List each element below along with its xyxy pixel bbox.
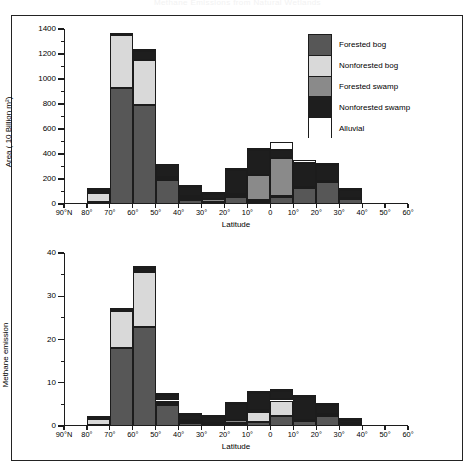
y-tick-label: 400 xyxy=(43,150,56,158)
bar-segment xyxy=(110,348,133,426)
bar-segment xyxy=(202,192,225,194)
bar-segment xyxy=(339,420,362,422)
x-tick-label: 10° xyxy=(288,209,299,216)
y-tick-minor xyxy=(61,404,65,405)
bar-segment xyxy=(110,35,133,88)
plot-area-top: Latitude 020040060080010001200140090°N80… xyxy=(64,29,408,204)
x-tick-label: 20° xyxy=(311,209,322,216)
bar-segment xyxy=(247,202,270,205)
y-tick-label: 40 xyxy=(47,249,56,257)
bar-segment xyxy=(225,168,248,170)
bar-stack xyxy=(293,160,316,204)
bar-stack xyxy=(179,185,202,204)
x-tick-label: 70° xyxy=(104,209,115,216)
bar-segment xyxy=(87,202,110,204)
bar-segment xyxy=(110,308,133,311)
bar-segment xyxy=(179,423,202,426)
panel-area-chart: Area ( 10 Billion m²) Latitude 020040060… xyxy=(12,16,464,239)
bar-stack xyxy=(316,404,339,426)
bar-stack xyxy=(247,392,270,426)
bar-segment xyxy=(339,190,362,198)
bar-stack xyxy=(133,50,156,204)
legend-swatch xyxy=(309,118,331,139)
y-tick-label: 200 xyxy=(43,175,56,183)
y-tick-minor xyxy=(61,317,65,318)
bar-segment xyxy=(293,421,316,426)
panel-methane-chart: Methane emission Latitude 01020304090°N8… xyxy=(12,239,464,462)
bar-stack xyxy=(87,417,110,426)
x-tick-label: 20° xyxy=(219,431,230,438)
bar-segment xyxy=(293,160,316,164)
y-tick xyxy=(58,153,64,154)
y-tick-minor xyxy=(61,166,65,167)
x-tick-label: 50° xyxy=(150,209,161,216)
legend-label: Alluvial xyxy=(339,125,364,133)
x-tick-label: 60° xyxy=(127,431,138,438)
bar-segment xyxy=(270,158,293,196)
x-tick-label: 30° xyxy=(196,431,207,438)
x-tick-label: 80° xyxy=(81,209,92,216)
bar-segment xyxy=(293,397,316,420)
legend-swatch xyxy=(309,97,331,118)
y-tick-label: 20 xyxy=(47,336,56,344)
x-axis-label-top: Latitude xyxy=(64,221,408,229)
bar-stack xyxy=(339,420,362,426)
bar-segment xyxy=(293,188,316,204)
y-axis-line-top xyxy=(64,29,65,204)
bar-stack xyxy=(156,395,179,426)
bar-segment xyxy=(247,412,270,422)
bar-stack xyxy=(247,150,270,204)
y-tick xyxy=(58,252,64,253)
bar-segment xyxy=(179,419,202,421)
bar-segment xyxy=(270,197,293,205)
y-tick xyxy=(58,296,64,297)
x-tick-label: 30° xyxy=(334,209,345,216)
y-tick xyxy=(58,78,64,79)
bar-segment xyxy=(110,88,133,204)
legend-swatch xyxy=(309,56,331,77)
bar-segment xyxy=(156,395,179,400)
bar-segment xyxy=(225,402,248,404)
bar-segment xyxy=(156,164,179,177)
bar-segment xyxy=(202,194,225,199)
x-tick-label: 40° xyxy=(173,431,184,438)
y-tick-label: 600 xyxy=(43,125,56,133)
x-tick-label: 20° xyxy=(219,209,230,216)
y-tick xyxy=(58,339,64,340)
bar-stack xyxy=(179,415,202,426)
x-tick-label: 60° xyxy=(127,209,138,216)
bar-stack xyxy=(270,389,293,426)
bar-segment xyxy=(87,188,110,190)
y-tick xyxy=(58,382,64,383)
y-tick-minor xyxy=(61,191,65,192)
bar-segment xyxy=(225,197,248,204)
bar-segment xyxy=(270,416,293,426)
y-tick-label: 1400 xyxy=(38,25,56,33)
bar-segment xyxy=(247,391,270,393)
bar-segment xyxy=(247,393,270,410)
bar-segment xyxy=(339,199,362,204)
bar-segment xyxy=(270,142,293,150)
y-tick-minor xyxy=(61,91,65,92)
legend-label: Forested swamp xyxy=(339,83,398,91)
x-tick-label: 10° xyxy=(242,209,253,216)
bar-segment xyxy=(156,403,179,406)
x-tick-label: 0 xyxy=(268,431,272,438)
bar-segment xyxy=(202,422,225,424)
bar-segment xyxy=(156,405,179,426)
bar-stack xyxy=(110,34,133,204)
x-tick-label: 30° xyxy=(196,209,207,216)
bar-stack xyxy=(339,188,362,204)
bar-segment xyxy=(156,401,179,403)
bar-stack xyxy=(202,193,225,204)
chart-legend: Forested bogNonforested bogForested swam… xyxy=(308,34,332,138)
bar-segment xyxy=(270,389,293,391)
bar-segment xyxy=(316,405,339,414)
bar-segment xyxy=(339,188,362,190)
x-axis-label-bottom: Latitude xyxy=(64,443,408,451)
x-tick-label: 0 xyxy=(268,209,272,216)
bar-segment xyxy=(270,150,293,158)
bar-segment xyxy=(179,185,202,187)
bar-segment xyxy=(110,33,133,35)
x-tick-label: 50° xyxy=(379,431,390,438)
